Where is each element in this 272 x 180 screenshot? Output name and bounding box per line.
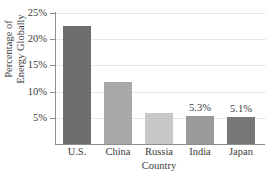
- bar-japan: [227, 117, 255, 144]
- y-tick-label-25: 25%: [13, 8, 47, 19]
- y-tick-label-5: 5%: [13, 113, 47, 124]
- x-axis-title: Country: [56, 161, 262, 172]
- y-axis-title-line-2: Energy Globally: [15, 14, 27, 84]
- bar-chart: Percentage of Energy Globally 5%10%15%20…: [0, 0, 272, 180]
- x-axis-label-japan: Japan: [215, 147, 267, 158]
- bar-china: [104, 82, 132, 144]
- bar-russia: [145, 113, 173, 144]
- bar-india: [186, 116, 214, 144]
- x-axis-line: [55, 144, 265, 145]
- y-tick-label-10: 10%: [13, 87, 47, 98]
- bar-u-s: [63, 26, 91, 144]
- y-tick-label-20: 20%: [13, 34, 47, 45]
- bar-value-label-japan: 5.1%: [219, 104, 263, 115]
- y-tick-label-15: 15%: [13, 60, 47, 71]
- bar-value-label-india: 5.3%: [178, 103, 222, 114]
- plot-area: 5.3%5.1%: [56, 13, 262, 144]
